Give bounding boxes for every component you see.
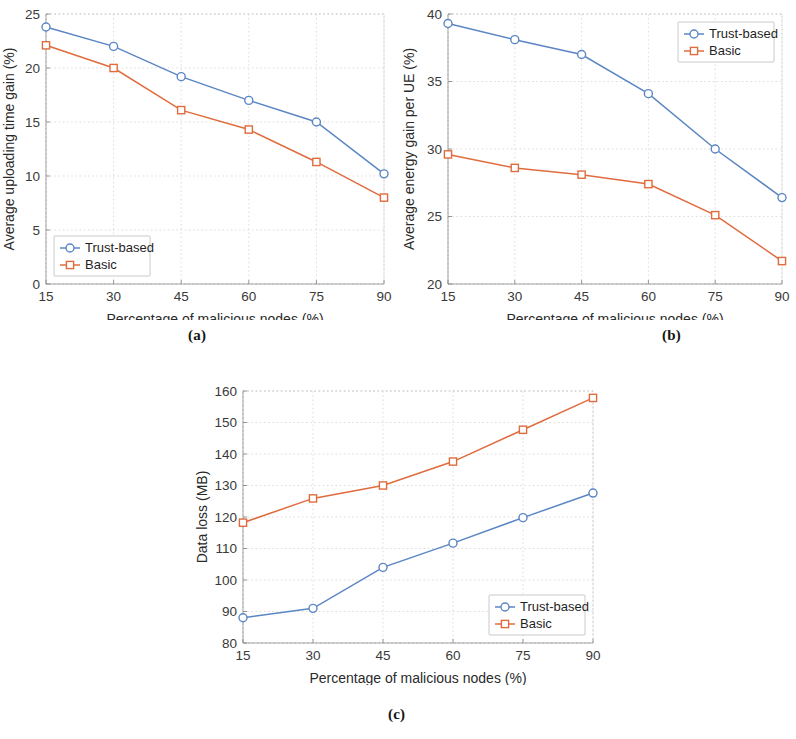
x-tick-label: 45 (174, 289, 189, 304)
chart-c-group: 8090100110120130140150160153045607590Per… (194, 384, 601, 685)
y-tick-label: 5 (32, 223, 40, 238)
y-tick-label: 35 (427, 74, 442, 89)
legend-marker (501, 620, 508, 627)
data-point-marker (511, 36, 519, 44)
data-point-marker (379, 563, 387, 571)
legend-marker (501, 603, 509, 611)
data-point-marker (644, 90, 652, 98)
x-axis-title: Percentage of malicious nodes (%) (106, 311, 323, 320)
data-point-marker (578, 51, 586, 59)
data-point-marker (449, 458, 456, 465)
y-tick-label: 140 (214, 447, 237, 462)
data-point-marker (309, 604, 317, 612)
data-point-marker (712, 212, 719, 219)
chart-a-legend: Trust-basedBasic (54, 236, 154, 276)
y-axis-title: Average energy gain per UE (%) (401, 48, 417, 250)
chart-c-legend: Trust-basedBasic (489, 595, 589, 635)
x-tick-label: 60 (445, 648, 460, 663)
y-tick-label: 120 (214, 510, 237, 525)
legend-label: Basic (520, 616, 552, 631)
x-tick-label: 30 (507, 289, 522, 304)
legend-label: Trust-based (520, 599, 589, 614)
data-point-marker (379, 482, 386, 489)
legend-label: Basic (709, 43, 741, 58)
data-point-marker (177, 73, 185, 81)
data-point-marker (578, 171, 585, 178)
x-tick-label: 90 (376, 289, 391, 304)
x-tick-label: 60 (241, 289, 256, 304)
data-point-marker (711, 145, 719, 153)
y-tick-label: 25 (427, 209, 442, 224)
x-tick-label: 90 (585, 648, 600, 663)
y-tick-label: 40 (427, 7, 442, 22)
data-point-marker (778, 257, 785, 264)
data-point-marker (110, 42, 118, 50)
x-tick-label: 15 (38, 289, 53, 304)
data-point-marker (519, 514, 527, 522)
data-point-marker (312, 118, 320, 126)
legend-label: Trust-based (709, 26, 778, 41)
data-point-marker (380, 194, 387, 201)
data-point-marker (380, 170, 388, 178)
chart-b-group: 2025303540153045607590Percentage of mali… (401, 7, 790, 320)
x-tick-label: 75 (515, 648, 530, 663)
y-tick-label: 10 (25, 169, 40, 184)
chart-b-legend: Trust-basedBasic (678, 22, 778, 62)
legend-marker (690, 47, 697, 54)
legend-label: Trust-based (85, 240, 154, 255)
data-point-marker (42, 42, 49, 49)
data-point-marker (449, 539, 457, 547)
x-tick-label: 15 (235, 648, 250, 663)
data-point-marker (589, 394, 596, 401)
data-point-marker (239, 614, 247, 622)
x-tick-label: 45 (574, 289, 589, 304)
data-point-marker (309, 495, 316, 502)
data-point-marker (42, 23, 50, 31)
y-tick-label: 110 (215, 541, 237, 556)
data-point-marker (589, 489, 597, 497)
data-point-marker (245, 96, 253, 104)
chart-a-group: 0510152025153045607590Percentage of mali… (1, 7, 392, 320)
data-point-marker (444, 151, 451, 158)
x-axis-title: Percentage of malicious nodes (%) (506, 311, 723, 320)
data-point-marker (110, 64, 117, 71)
legend-label: Basic (85, 257, 117, 272)
legend-marker (690, 30, 698, 38)
chart-c-svg: 8090100110120130140150160153045607590Per… (185, 375, 615, 685)
legend-marker (66, 244, 74, 252)
y-tick-label: 100 (214, 573, 237, 588)
figure-sheet: 0510152025153045607590Percentage of mali… (0, 0, 796, 739)
y-axis-title: Average uploading time gain (%) (1, 48, 17, 251)
data-point-marker (778, 194, 786, 202)
chart-panel-a: 0510152025153045607590Percentage of mali… (0, 0, 398, 320)
x-axis-title: Percentage of malicious nodes (%) (309, 670, 526, 685)
x-tick-label: 60 (641, 289, 656, 304)
x-tick-label: 15 (440, 289, 455, 304)
legend-marker (66, 261, 73, 268)
panel-caption-b: (b) (662, 327, 681, 344)
y-tick-label: 25 (25, 7, 40, 22)
y-tick-label: 15 (25, 115, 40, 130)
data-point-marker (519, 426, 526, 433)
y-axis-title: Data loss (MB) (194, 471, 210, 564)
data-point-marker (511, 164, 518, 171)
y-tick-label: 30 (427, 142, 442, 157)
chart-a-svg: 0510152025153045607590Percentage of mali… (0, 0, 398, 320)
x-tick-label: 30 (106, 289, 121, 304)
y-tick-label: 130 (214, 478, 237, 493)
data-point-marker (245, 126, 252, 133)
y-tick-label: 150 (214, 415, 237, 430)
x-tick-label: 90 (774, 289, 789, 304)
x-tick-label: 45 (375, 648, 390, 663)
y-tick-label: 160 (214, 384, 237, 399)
x-tick-label: 75 (708, 289, 723, 304)
chart-panel-b: 2025303540153045607590Percentage of mali… (398, 0, 796, 320)
x-tick-label: 75 (309, 289, 324, 304)
data-point-marker (645, 181, 652, 188)
x-tick-label: 30 (305, 648, 320, 663)
panel-caption-a: (a) (188, 327, 206, 344)
data-point-marker (178, 107, 185, 114)
panel-caption-c: (c) (388, 706, 405, 723)
chart-b-svg: 2025303540153045607590Percentage of mali… (398, 0, 796, 320)
y-tick-label: 90 (222, 604, 237, 619)
